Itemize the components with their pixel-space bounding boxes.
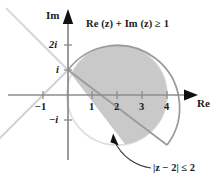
half-plane-condition-label: Re (z) + Im (z) ≥ 1 — [86, 19, 169, 30]
imaginary-axis-label: Im — [46, 10, 59, 21]
x-tick-label-4: 4 — [164, 102, 169, 113]
disk-condition-label: |z − 2| ≤ 2 — [153, 163, 195, 174]
y-tick-label-2i: 2i — [49, 40, 57, 51]
guide-line-boundary-extension-3 — [6, 8, 26, 28]
complex-plane-figure: Im Re −1 1 2 3 4 2i i −i Re (z) + Im (z)… — [0, 0, 213, 184]
y-tick-label-minus-i: −i — [49, 115, 58, 126]
guide-line-boundary-extension-2 — [26, 28, 68, 70]
x-tick-label-1: 1 — [89, 102, 94, 113]
real-axis-label: Re — [197, 98, 210, 109]
disk-caption-leader-arrowhead — [110, 134, 118, 146]
y-tick-label-i: i — [56, 65, 59, 76]
guide-line-boundary-extension — [0, 70, 68, 142]
x-tick-label-3: 3 — [139, 102, 144, 113]
imaginary-axis-arrowhead — [63, 9, 73, 24]
real-axis-arrowhead — [184, 90, 198, 101]
x-tick-label-minus1: −1 — [35, 102, 46, 113]
x-tick-label-2: 2 — [114, 102, 119, 113]
